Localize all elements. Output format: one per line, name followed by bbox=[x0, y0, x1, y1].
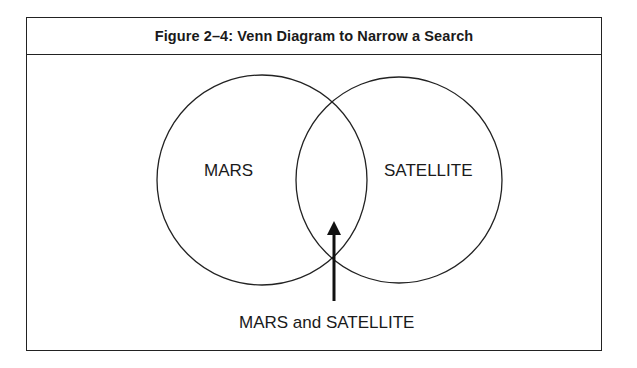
set-label-satellite: SATELLITE bbox=[384, 161, 473, 181]
set-label-mars: MARS bbox=[204, 161, 253, 181]
intersection-label: MARS and SATELLITE bbox=[239, 313, 414, 333]
